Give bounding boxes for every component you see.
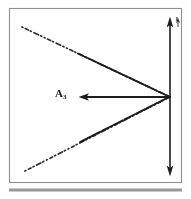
lower-dashed-line-overlay (80, 98, 168, 143)
figure-frame (10, 9, 182, 183)
vector-label-subscript: 3 (63, 93, 67, 101)
vector-label-base: A (55, 87, 63, 99)
diagram-svg (0, 0, 191, 199)
figure-root: A3 1 (0, 0, 191, 199)
upper-dashed-line-overlay (78, 54, 170, 98)
vector-label-a3: A3 (55, 88, 66, 101)
axis-label-1: 1 (175, 16, 179, 23)
diagram-canvas (0, 0, 191, 199)
convergence-vertex (168, 96, 170, 98)
